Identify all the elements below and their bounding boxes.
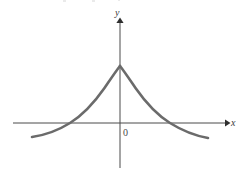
origin-label: 0 xyxy=(123,128,128,138)
axes-group xyxy=(13,18,231,169)
decay-curve-right-branch xyxy=(120,66,208,138)
y-axis-label: y xyxy=(115,8,119,18)
x-axis-label: x xyxy=(231,118,235,128)
coordinate-plane xyxy=(0,0,246,172)
graph-figure: y x 0 xyxy=(0,0,246,172)
x-axis-arrowhead xyxy=(225,119,231,126)
y-axis-arrowhead xyxy=(116,18,123,24)
decay-curve-left-branch xyxy=(32,66,120,137)
